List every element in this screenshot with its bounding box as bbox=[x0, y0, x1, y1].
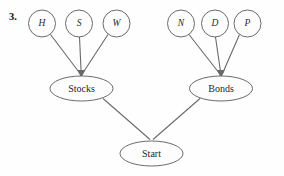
decision-tree-diagram: H S W N D P Stocks Bon bbox=[0, 0, 284, 176]
leaf-node-d[interactable]: D bbox=[202, 10, 229, 37]
root-node-start[interactable]: Start bbox=[120, 141, 183, 166]
leaf-label-w: W bbox=[113, 18, 122, 28]
edge-stocks-to-start bbox=[103, 99, 150, 140]
edges-to-start bbox=[103, 99, 200, 140]
problem-number: 3. bbox=[9, 11, 17, 22]
edges-to-bonds bbox=[189, 35, 240, 79]
edge-w-to-stocks bbox=[83, 35, 109, 74]
leaf-node-p[interactable]: P bbox=[234, 10, 261, 37]
leaf-label-p: P bbox=[244, 18, 251, 28]
branch-node-stocks[interactable]: Stocks bbox=[50, 76, 113, 101]
leaf-node-s[interactable]: S bbox=[66, 10, 93, 37]
leaf-label-s: S bbox=[77, 18, 82, 28]
leaf-node-w[interactable]: W bbox=[103, 10, 130, 37]
edge-bonds-to-start bbox=[153, 99, 200, 140]
edge-d-to-bonds bbox=[216, 37, 221, 74]
branch-label-stocks: Stocks bbox=[68, 83, 95, 94]
edge-h-to-stocks bbox=[51, 35, 81, 74]
branch-node-bonds[interactable]: Bonds bbox=[190, 76, 253, 101]
edge-p-to-bonds bbox=[223, 35, 240, 74]
edge-n-to-bonds bbox=[189, 35, 220, 74]
leaf-label-h: H bbox=[38, 18, 47, 28]
root-label-start: Start bbox=[142, 148, 161, 159]
leaf-label-d: D bbox=[211, 18, 219, 28]
diagram-page: H S W N D P Stocks Bon bbox=[0, 0, 284, 176]
leaf-node-n[interactable]: N bbox=[168, 10, 195, 37]
branch-label-bonds: Bonds bbox=[208, 83, 234, 94]
edge-s-to-stocks bbox=[80, 37, 82, 74]
edges-to-stocks bbox=[51, 35, 109, 79]
leaf-node-h[interactable]: H bbox=[29, 10, 56, 37]
leaf-label-n: N bbox=[177, 18, 185, 28]
